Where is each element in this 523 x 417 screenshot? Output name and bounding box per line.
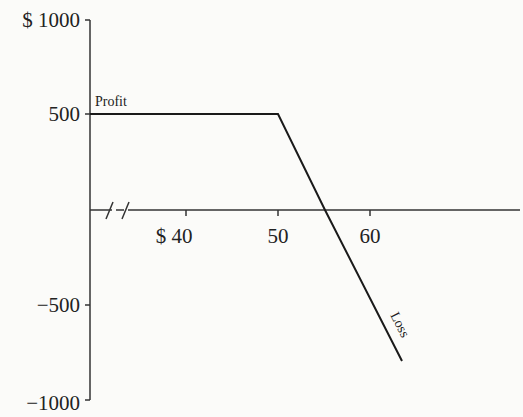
y-tick-label-neg1000: −1000 [26,391,80,415]
payoff-chart: $ 1000 500 −500 −1000 $ 40 50 60 Profit … [0,0,523,417]
x-tick-label-60: 60 [360,224,381,248]
payoff-line [90,114,402,361]
y-tick-label-1000: $ 1000 [22,8,80,32]
loss-label: Loss [387,310,412,340]
x-tick-label-50: 50 [268,224,289,248]
x-tick-label-40: $ 40 [156,224,193,248]
profit-label: Profit [95,94,127,109]
y-tick-label-500: 500 [49,102,81,126]
y-tick-label-neg500: −500 [37,293,80,317]
